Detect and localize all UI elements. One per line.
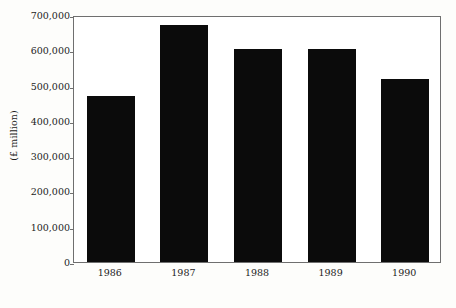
- y-axis-tick-mark: [70, 264, 74, 265]
- bar: [308, 49, 356, 262]
- y-axis-tick-labels: 0100,000200,000300,000400,000500,000600,…: [14, 0, 70, 308]
- bar: [381, 79, 429, 262]
- x-axis-tick-label: 1988: [245, 268, 269, 278]
- bar: [160, 25, 208, 262]
- y-axis-tick-mark: [70, 158, 74, 159]
- y-axis-tick-label: 200,000: [14, 188, 70, 198]
- x-axis-tick-label: 1990: [392, 268, 416, 278]
- y-axis-tick-label: 0: [14, 258, 70, 268]
- x-axis-tick-label: 1989: [319, 268, 343, 278]
- y-axis-tick-mark: [70, 52, 74, 53]
- plot-area: [73, 16, 441, 263]
- bar: [234, 49, 282, 262]
- bar-chart: (£ million) 0100,000200,000300,000400,00…: [0, 0, 456, 308]
- y-axis-tick-mark: [70, 17, 74, 18]
- x-axis-tick-labels: 19861987198819891990: [73, 268, 441, 288]
- bars-layer: [74, 17, 440, 262]
- y-axis-tick-label: 600,000: [14, 47, 70, 57]
- y-axis-tick-label: 400,000: [14, 117, 70, 127]
- y-axis-tick-mark: [70, 229, 74, 230]
- y-axis-tick-label: 500,000: [14, 82, 70, 92]
- bar: [87, 96, 135, 262]
- y-axis-tick-label: 700,000: [14, 11, 70, 21]
- y-axis-tick-label: 300,000: [14, 152, 70, 162]
- y-axis-tick-mark: [70, 123, 74, 124]
- y-axis-tick-mark: [70, 88, 74, 89]
- y-axis-tick-label: 100,000: [14, 223, 70, 233]
- y-axis-tick-mark: [70, 193, 74, 194]
- x-axis-tick-label: 1987: [171, 268, 195, 278]
- x-axis-tick-label: 1986: [98, 268, 122, 278]
